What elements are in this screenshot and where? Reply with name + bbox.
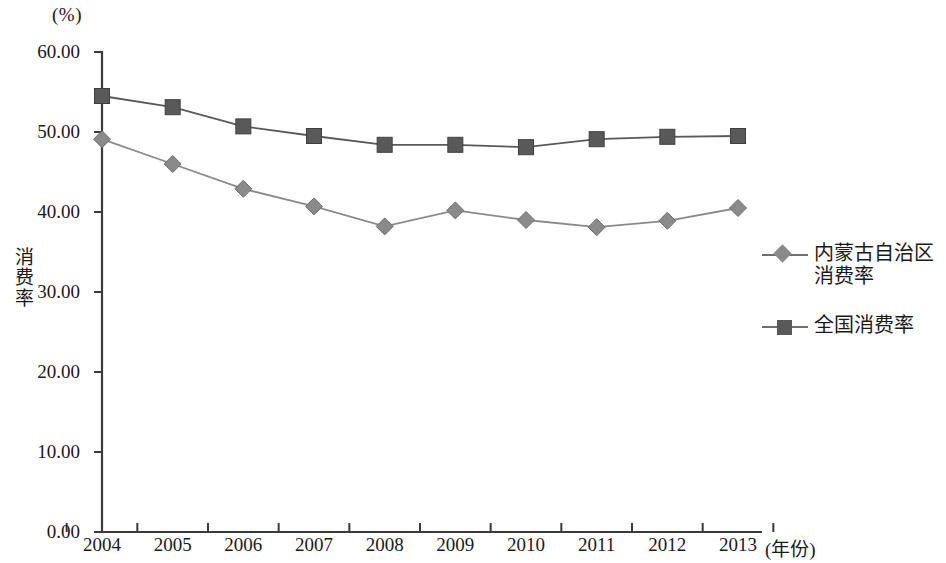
x-tick-label: 2013 bbox=[703, 534, 773, 556]
data-point-diamond-marker bbox=[447, 202, 464, 219]
x-tick-label: 2005 bbox=[138, 534, 208, 556]
data-point-diamond-marker bbox=[94, 131, 111, 148]
series-inner-mongolia bbox=[94, 131, 747, 236]
data-point-diamond-marker bbox=[376, 218, 393, 235]
data-point-diamond-marker bbox=[659, 212, 676, 229]
data-point-square-marker bbox=[307, 129, 322, 144]
y-tick-label: 60.00 bbox=[0, 41, 80, 63]
x-tick-label: 2007 bbox=[279, 534, 349, 556]
series-national bbox=[95, 89, 746, 155]
data-point-diamond-marker bbox=[588, 219, 605, 236]
x-tick-label: 2004 bbox=[67, 534, 137, 556]
y-tick-label: 40.00 bbox=[0, 201, 80, 223]
x-tick-label: 2012 bbox=[632, 534, 702, 556]
data-point-square-marker bbox=[95, 89, 110, 104]
square-marker-icon bbox=[762, 316, 808, 338]
data-point-diamond-marker bbox=[164, 156, 181, 173]
data-point-square-marker bbox=[448, 137, 463, 152]
legend-label-inner-mongolia: 内蒙古自治区 消费率 bbox=[808, 242, 934, 288]
series-line bbox=[102, 139, 738, 227]
chart-legend: 内蒙古自治区 消费率 全国消费率 bbox=[762, 242, 946, 364]
data-point-square-marker bbox=[731, 129, 746, 144]
series-line bbox=[102, 96, 738, 147]
x-tick-label: 2006 bbox=[208, 534, 278, 556]
x-tick-label: 2011 bbox=[562, 534, 632, 556]
data-point-square-marker bbox=[377, 137, 392, 152]
data-point-diamond-marker bbox=[306, 198, 323, 215]
y-tick-label: 30.00 bbox=[0, 281, 80, 303]
data-point-square-marker bbox=[589, 132, 604, 147]
legend-item-national[interactable]: 全国消费率 bbox=[762, 314, 946, 338]
data-point-diamond-marker bbox=[235, 180, 252, 197]
legend-item-inner-mongolia[interactable]: 内蒙古自治区 消费率 bbox=[762, 242, 946, 288]
x-tick-label: 2008 bbox=[350, 534, 420, 556]
x-tick-label: 2010 bbox=[491, 534, 561, 556]
y-axis-tick-labels: 0.0010.0020.0030.0040.0050.0060.00 bbox=[0, 0, 80, 563]
y-tick-label: 50.00 bbox=[0, 121, 80, 143]
diamond-marker-icon bbox=[762, 244, 808, 266]
x-axis-unit-label: (年份) bbox=[765, 534, 816, 561]
data-point-diamond-marker bbox=[730, 200, 747, 217]
data-point-square-marker bbox=[165, 100, 180, 115]
x-tick-label: 2009 bbox=[420, 534, 490, 556]
data-point-square-marker bbox=[236, 119, 251, 134]
data-point-square-marker bbox=[660, 129, 675, 144]
legend-label-national: 全国消费率 bbox=[808, 314, 914, 337]
chart-container: (%) 消 费 率 0.0010.0020.0030.0040.0050.006… bbox=[0, 0, 946, 563]
data-point-diamond-marker bbox=[518, 212, 535, 229]
y-tick-label: 10.00 bbox=[0, 441, 80, 463]
data-point-square-marker bbox=[519, 140, 534, 155]
y-tick-label: 20.00 bbox=[0, 361, 80, 383]
